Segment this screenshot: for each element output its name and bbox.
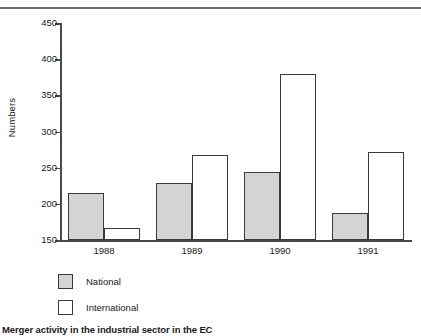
x-tick-label-1989: 1989: [181, 245, 202, 256]
y-tick-label: 450: [41, 18, 57, 28]
legend-swatch-national-icon: [58, 274, 73, 289]
bar-national-1989: [156, 183, 192, 240]
y-axis-title: Numbers: [6, 88, 17, 148]
bar-national-1988: [68, 193, 104, 240]
legend-label-national: National: [86, 276, 121, 287]
bar-national-1990: [244, 172, 280, 240]
bar-international-1989: [192, 155, 228, 240]
bar-international-1988: [104, 228, 140, 240]
x-tick-label-1990: 1990: [269, 245, 290, 256]
legend-item-national: National: [58, 268, 138, 294]
legend-item-international: International: [58, 294, 138, 320]
figure-caption: Merger activity in the industrial sector…: [2, 324, 421, 335]
bar-international-1990: [280, 74, 316, 240]
legend-swatch-international-icon: [58, 300, 73, 315]
y-tick-label: 250: [41, 163, 57, 173]
plot-area: 150200250300350400450 1988198919901991: [60, 23, 412, 240]
x-axis-line: [60, 240, 412, 242]
legend-label-international: International: [86, 302, 138, 313]
bar-international-1991: [368, 152, 404, 240]
y-axis-line: [60, 23, 62, 240]
y-tick-label: 300: [41, 127, 57, 137]
y-tick-label: 200: [41, 199, 57, 209]
bar-national-1991: [332, 213, 368, 240]
y-tick-label: 400: [41, 54, 57, 64]
chart-legend: National International: [58, 268, 138, 320]
x-tick-label-1991: 1991: [357, 245, 378, 256]
y-tick-label: 350: [41, 91, 57, 101]
bar-chart-figure: Numbers 150200250300350400450 1988198919…: [0, 0, 421, 336]
y-tick-label: 150: [41, 235, 57, 245]
x-tick-label-1988: 1988: [93, 245, 114, 256]
